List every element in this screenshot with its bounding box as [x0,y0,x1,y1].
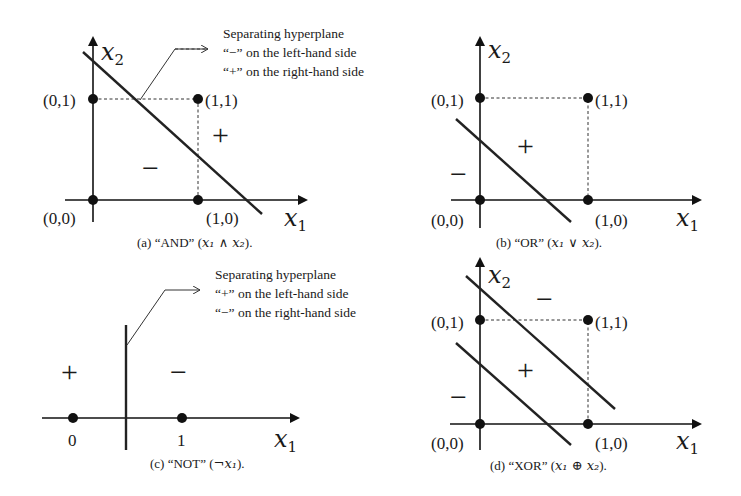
region-minus-top: − [536,282,553,315]
caption-not: (c) “NOT” (¬x₁). [150,456,245,471]
svg-text:Separating hyperplane: Separating hyperplane [223,26,344,41]
region-plus: + [517,353,534,386]
panel-or: (0,0) (0,1) (1,0) (1,1) x2 x1 + − (b) “O… [431,36,700,250]
point-label-0-1: (0,1) [43,91,76,110]
point-label-0-0: (0,0) [431,434,464,453]
svg-text:Separating hyperplane: Separating hyperplane [215,267,336,282]
unit-square-dashed [93,99,198,200]
annotation-text: Separating hyperplane “+” on the left-ha… [215,267,356,320]
point-0-1 [475,315,485,325]
separating-hyperplane-lower [456,343,571,445]
region-plus: + [61,355,78,388]
point-1-0 [583,195,593,205]
unit-square-dashed [480,98,588,200]
logic-gates-linear-separability-figure: (0,0) (0,1) (1,0) (1,1) x2 x1 + − Separa… [0,0,741,496]
region-minus: − [170,355,187,388]
region-plus: + [517,129,534,162]
region-minus-bottom: − [450,380,467,413]
point-label-1-0: (1,0) [206,209,239,228]
region-plus: + [212,118,229,151]
axis-label-x2: x2 [101,38,124,69]
panel-not: 0 1 x1 + − Separating hyperplane “+” on … [42,267,356,471]
point-0-1 [475,93,485,103]
point-0-0 [88,195,98,205]
point-label-0-0: (0,0) [43,209,76,228]
svg-text:“+” on the left-hand side: “+” on the left-hand side [215,286,349,301]
caption-xor: (d) “XOR” (x₁ ⊕ x₂). [490,458,607,473]
panel-and: (0,0) (0,1) (1,0) (1,1) x2 x1 + − Separa… [43,26,364,250]
point-0 [68,413,78,423]
point-1-1 [583,315,593,325]
svg-text:“−” on the right-hand side: “−” on the right-hand side [215,305,356,320]
point-label-1-0: (1,0) [595,434,628,453]
point-1-1 [193,94,203,104]
svg-text:“+” on the right-hand side: “+” on the right-hand side [223,64,364,79]
region-minus: − [450,157,467,190]
point-0-0 [475,195,485,205]
annotation-leader [127,290,200,345]
axis-label-x1: x1 [676,427,699,458]
point-label-0-1: (0,1) [431,313,464,332]
point-label-1-1: (1,1) [205,91,238,110]
point-label-0-0: (0,0) [431,211,464,230]
annotation-leader [140,49,208,100]
separating-hyperplane [456,119,571,222]
point-0-0 [475,419,485,429]
point-label-1-0: (1,0) [595,211,628,230]
caption-or: (b) “OR” (x₁ ∨ x₂). [496,235,602,250]
point-label-0: 0 [68,431,77,450]
caption-and: (a) “AND” (x₁ ∧ x₂). [137,235,252,250]
axis-label-x1: x1 [284,204,307,235]
axis-label-x2: x2 [488,36,511,67]
svg-text:“−” on the left-hand side: “−” on the left-hand side [223,45,357,60]
panel-xor: (0,0) (0,1) (1,0) (1,1) x2 x1 + − − (d) … [431,259,700,473]
point-0-1 [88,94,98,104]
point-label-1-1: (1,1) [595,91,628,110]
point-1 [177,413,187,423]
axis-label-x1: x1 [676,204,699,235]
annotation-text: Separating hyperplane “−” on the left-ha… [223,26,364,79]
point-1-0 [193,195,203,205]
axis-label-x2: x2 [488,261,511,292]
point-label-1-1: (1,1) [595,313,628,332]
point-1-0 [583,419,593,429]
axis-label-x1: x1 [274,425,297,456]
point-1-1 [583,93,593,103]
region-minus: − [142,151,159,184]
point-label-1: 1 [177,431,186,450]
point-label-0-1: (0,1) [431,91,464,110]
